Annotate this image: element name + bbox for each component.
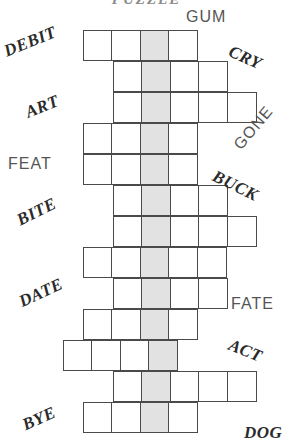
grid-cell[interactable] — [113, 371, 143, 402]
grid-cell[interactable] — [83, 309, 113, 340]
grid-cell[interactable] — [168, 30, 198, 61]
grid-row — [83, 402, 197, 433]
grid-cell-shaded[interactable] — [141, 92, 171, 123]
grid-cell[interactable] — [113, 61, 143, 92]
grid-cell[interactable] — [111, 123, 141, 154]
grid-cell[interactable] — [197, 247, 227, 278]
grid-cell[interactable] — [113, 216, 143, 247]
grid-cell[interactable] — [111, 402, 141, 433]
grid-cell[interactable] — [170, 185, 200, 216]
grid-cell[interactable] — [168, 123, 198, 154]
grid-cell[interactable] — [198, 92, 228, 123]
grid-cell-shaded[interactable] — [148, 340, 178, 371]
grid-row — [113, 278, 227, 309]
grid-row — [83, 309, 197, 340]
grid-cell[interactable] — [113, 92, 143, 123]
grid-cell[interactable] — [111, 247, 141, 278]
grid-cell[interactable] — [198, 371, 228, 402]
grid-cell[interactable] — [170, 216, 200, 247]
grid-cell[interactable] — [227, 216, 257, 247]
grid-row — [113, 185, 227, 216]
grid-cell[interactable] — [168, 402, 198, 433]
puzzle-page: PUZZLE GUMDEBITCRYARTGONEFEATBUCKBITEDAT… — [0, 0, 293, 444]
grid-cell[interactable] — [113, 185, 143, 216]
grid-cell[interactable] — [83, 123, 113, 154]
grid-cell[interactable] — [111, 30, 141, 61]
clue-word-feat: FEAT — [8, 155, 52, 173]
grid-cell-shaded[interactable] — [140, 30, 170, 61]
grid-row — [113, 216, 255, 247]
grid-row — [83, 30, 197, 61]
grid-cell-shaded[interactable] — [141, 216, 171, 247]
grid-cell-shaded[interactable] — [141, 61, 171, 92]
grid-cell-shaded[interactable] — [140, 154, 170, 185]
grid-cell[interactable] — [168, 309, 198, 340]
grid-cell[interactable] — [111, 154, 141, 185]
grid-row — [83, 123, 197, 154]
grid-cell[interactable] — [120, 340, 150, 371]
grid-cell-shaded[interactable] — [140, 402, 170, 433]
grid-cell[interactable] — [227, 371, 257, 402]
clue-word-gum: GUM — [186, 8, 226, 26]
clue-word-fate: FATE — [231, 295, 274, 313]
grid-cell-shaded[interactable] — [140, 247, 170, 278]
grid-row — [83, 247, 225, 278]
grid-cell[interactable] — [83, 247, 113, 278]
grid-cell[interactable] — [111, 309, 141, 340]
grid-cell[interactable] — [170, 92, 200, 123]
grid-row — [113, 371, 255, 402]
grid-cell-shaded[interactable] — [141, 185, 171, 216]
grid-cell-shaded[interactable] — [141, 371, 171, 402]
grid-cell[interactable] — [198, 216, 228, 247]
grid-row — [83, 154, 197, 185]
grid-cell[interactable] — [83, 154, 113, 185]
grid-cell[interactable] — [170, 278, 200, 309]
grid-cell[interactable] — [168, 247, 198, 278]
grid-cell[interactable] — [198, 278, 228, 309]
grid-cell[interactable] — [198, 61, 228, 92]
grid-cell[interactable] — [83, 402, 113, 433]
grid-cell[interactable] — [113, 278, 143, 309]
grid-cell-shaded[interactable] — [140, 123, 170, 154]
grid-row — [63, 340, 177, 371]
grid-cell[interactable] — [83, 30, 113, 61]
grid-cell[interactable] — [91, 340, 121, 371]
grid-cell-shaded[interactable] — [141, 278, 171, 309]
grid-cell-shaded[interactable] — [140, 309, 170, 340]
grid-row — [113, 92, 255, 123]
grid-cell[interactable] — [168, 154, 198, 185]
grid-cell[interactable] — [170, 371, 200, 402]
grid-row — [113, 61, 227, 92]
grid-cell[interactable] — [63, 340, 93, 371]
grid-cell[interactable] — [170, 61, 200, 92]
clue-word-dog: DOG — [244, 423, 282, 443]
